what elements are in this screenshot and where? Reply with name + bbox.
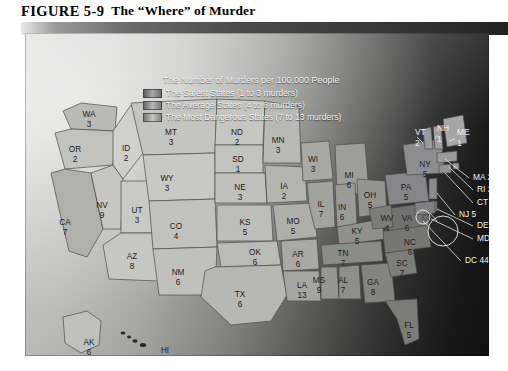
state-value-wy: 3	[165, 184, 170, 193]
legend-label-average: The Average States (4 to 6 murders)	[166, 100, 305, 110]
state-shape-md	[415, 201, 435, 215]
state-code-nd: ND	[231, 128, 243, 137]
state-value-fl: 5	[407, 331, 412, 340]
state-code-il: IL	[318, 200, 325, 209]
state-value-ne: 3	[238, 193, 243, 202]
state-code-oh: OH	[364, 191, 376, 200]
legend-item-dangerous: The Most Dangerous States (7 to 13 murde…	[143, 112, 341, 123]
callout-value-vt: 2	[415, 138, 420, 148]
state-value-mn: 3	[276, 146, 281, 155]
legend-item-safest: The Safest States (1 to 3 murders)	[143, 88, 341, 99]
murder-rate-choropleth-map: The Number of Murders per 100,000 People…	[25, 33, 489, 356]
state-value-tn: 7	[341, 259, 346, 268]
state-code-ia: IA	[280, 182, 288, 191]
state-code-sc: SC	[396, 259, 407, 268]
state-value-sc: 7	[400, 269, 405, 278]
state-value-ks: 5	[243, 228, 248, 237]
state-value-nc: 6	[408, 248, 413, 257]
state-shape-or	[55, 129, 115, 169]
state-code-ny: NY	[419, 160, 431, 169]
state-code-pa: PA	[401, 183, 412, 192]
state-value-ky: 5	[355, 237, 360, 246]
state-value-az: 8	[130, 262, 135, 271]
callout-text-ma: MA 2	[473, 172, 489, 182]
state-value-ak: 6	[87, 348, 92, 356]
legend-swatch-average	[143, 101, 162, 110]
state-value-wv: 4	[385, 224, 390, 233]
callout-text-ct: CT 3	[477, 197, 489, 207]
state-code-ne: NE	[234, 183, 246, 192]
state-code-in: IN	[338, 203, 346, 212]
state-code-ar: AR	[292, 250, 303, 259]
state-code-nm: NM	[172, 268, 185, 277]
state-code-ok: OK	[249, 248, 261, 257]
state-code-ks: KS	[240, 218, 251, 227]
state-shape-wy	[143, 153, 215, 201]
state-value-la: 13	[297, 291, 307, 300]
state-value-wa: 3	[87, 120, 92, 129]
state-code-fl: FL	[404, 321, 414, 330]
state-value-pa: 5	[404, 193, 409, 202]
state-value-wi: 3	[311, 165, 316, 174]
state-code-al: AL	[338, 276, 348, 285]
state-value-ga: 8	[371, 288, 376, 297]
state-code-sd: SD	[232, 155, 243, 164]
state-value-oh: 5	[368, 201, 373, 210]
state-code-wy: WY	[160, 174, 174, 183]
state-value-or: 2	[73, 155, 78, 164]
state-code-wi: WI	[308, 155, 318, 164]
state-shape-ak	[63, 311, 101, 353]
state-value-nv: 9	[100, 211, 105, 220]
callout-ri: RI 2	[477, 184, 489, 194]
state-value-id: 2	[124, 154, 129, 163]
state-code-az: AZ	[127, 252, 137, 261]
state-shape-ct	[439, 164, 451, 173]
state-code-wa: WA	[83, 110, 96, 119]
callout-value-nh: 1	[437, 134, 442, 144]
state-code-hi: HI	[161, 346, 169, 355]
state-code-va: VA	[402, 214, 413, 223]
legend-label-safest: The Safest States (1 to 3 murders)	[166, 88, 298, 98]
callout-text-de: DE 3	[477, 220, 489, 230]
state-code-mi: MI	[344, 171, 353, 180]
callout-ma: MA 2	[473, 172, 489, 182]
state-value-ok: 6	[253, 258, 258, 267]
callout-md: MD 10	[477, 233, 489, 243]
map-legend: The Number of Murders per 100,000 People…	[143, 75, 341, 124]
state-value-co: 4	[174, 232, 179, 241]
legend-swatch-dangerous	[143, 113, 162, 122]
state-code-id: ID	[122, 144, 130, 153]
figure-caption: FIGURE 5-9 The “Where” of Murder	[21, 1, 491, 21]
state-label-la: LA13	[297, 281, 308, 300]
state-value-nd: 2	[235, 138, 240, 147]
state-value-ny: 5	[423, 170, 428, 179]
callout-dc: DC 44	[465, 255, 489, 265]
state-value-ut: 3	[135, 216, 140, 225]
state-value-al: 7	[341, 286, 346, 295]
callout-ct: CT 3	[477, 197, 489, 207]
state-code-wv: WV	[380, 214, 394, 223]
state-value-ia: 2	[282, 192, 287, 201]
state-value-il: 7	[319, 210, 324, 219]
legend-label-dangerous: The Most Dangerous States (7 to 13 murde…	[166, 112, 341, 122]
state-code-ga: GA	[367, 278, 379, 287]
state-shape-nj	[429, 178, 437, 199]
state-code-ms: MS	[313, 276, 326, 285]
state-value-mt: 3	[169, 138, 174, 147]
state-code-tx: TX	[235, 290, 246, 299]
insets-layer	[63, 311, 146, 353]
state-code-ak: AK	[84, 338, 95, 347]
state-code-ky: KY	[352, 227, 363, 236]
state-code-ca: CA	[59, 218, 71, 227]
hawaii-islands-shape	[121, 331, 147, 347]
callout-text-ri: RI 2	[477, 184, 489, 194]
state-value-sd: 1	[236, 165, 241, 174]
state-value-ca: 7	[63, 228, 68, 237]
state-value-mo: 5	[291, 227, 296, 236]
callout-nj: NJ 5	[459, 209, 477, 219]
callout-code-nh: NH	[437, 123, 449, 133]
state-code-or: OR	[69, 145, 81, 154]
state-value-in: 6	[340, 213, 345, 222]
state-code-mo: MO	[286, 217, 299, 226]
figure-number: FIGURE 5-9	[21, 3, 104, 20]
